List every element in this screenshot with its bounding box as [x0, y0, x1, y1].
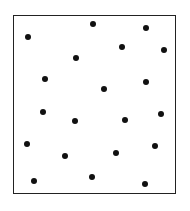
dot: [119, 44, 125, 50]
dot: [161, 47, 167, 53]
dot: [142, 181, 148, 187]
dot: [89, 174, 95, 180]
dot: [113, 150, 119, 156]
dot: [25, 34, 31, 40]
dot: [143, 79, 149, 85]
dot: [42, 76, 48, 82]
dot: [152, 143, 158, 149]
diagram-frame: [13, 15, 176, 194]
dot: [40, 109, 46, 115]
dot: [90, 21, 96, 27]
dot: [31, 178, 37, 184]
dot: [24, 141, 30, 147]
dot: [158, 111, 164, 117]
dot: [62, 153, 68, 159]
dot: [143, 25, 149, 31]
dot: [122, 117, 128, 123]
dot: [101, 86, 107, 92]
dot: [73, 55, 79, 61]
dot: [72, 118, 78, 124]
